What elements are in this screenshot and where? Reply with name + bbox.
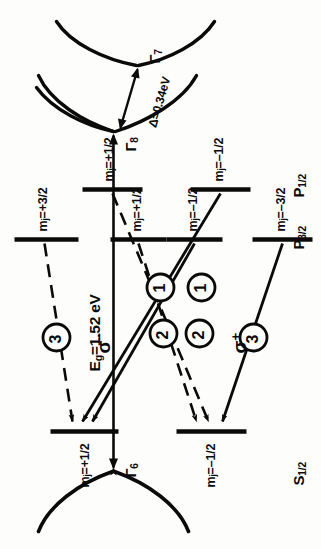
- level-label-s-plus-half: mj=+1/2: [78, 443, 91, 487]
- term-label-p-one-half: P1/2: [290, 174, 307, 197]
- strength-badge-1-sigma-plus: 1: [192, 283, 208, 292]
- polarization-label-sigma-plus: σ+: [228, 332, 248, 353]
- level-label-p32-plus-3-2: mj=+3/2: [36, 187, 49, 231]
- term-label-p-three-halves: P3/2: [290, 226, 307, 249]
- gamma7-label: Γ7: [146, 49, 163, 63]
- conduction-band-curve: [38, 471, 188, 531]
- split-off-arrow: [118, 67, 140, 129]
- gamma6-label: Γ6: [122, 463, 139, 477]
- level-label-s-minus-half: mj=–1/2: [204, 443, 217, 487]
- level-label-p32-plus-1-2: mj=+1/2: [130, 187, 143, 231]
- level-label-p32-minus-1-2: mj=–1/2: [186, 187, 199, 231]
- figure-canvas: 3 2 1 1 2 3 σ− σ+ mj=+1/2 mj=–1/2: [0, 0, 321, 549]
- level-label-p32-minus-3-2: mj=–3/2: [274, 187, 287, 231]
- strength-badge-2-sigma-plus: 2: [190, 330, 206, 339]
- strength-badge-2-sigma-minus: 2: [154, 330, 170, 339]
- level-label-p12-minus-1-2: mj=–1/2: [212, 137, 225, 181]
- strength-badge-3-sigma-minus: 3: [47, 334, 63, 343]
- gamma8-label: Γ8: [122, 137, 139, 151]
- level-label-p12-plus-1-2: mj=+1/2: [102, 137, 115, 181]
- strength-badge-1-sigma-minus: 1: [151, 283, 167, 292]
- figure-stage: 3 2 1 1 2 3 σ− σ+ mj=+1/2 mj=–1/2: [0, 0, 321, 549]
- term-label-s-one-half: S1/2: [290, 462, 307, 485]
- band-gap-energy-label: Eg=1.52 eV: [86, 294, 103, 371]
- valence-band-gamma7-curve: [56, 21, 214, 65]
